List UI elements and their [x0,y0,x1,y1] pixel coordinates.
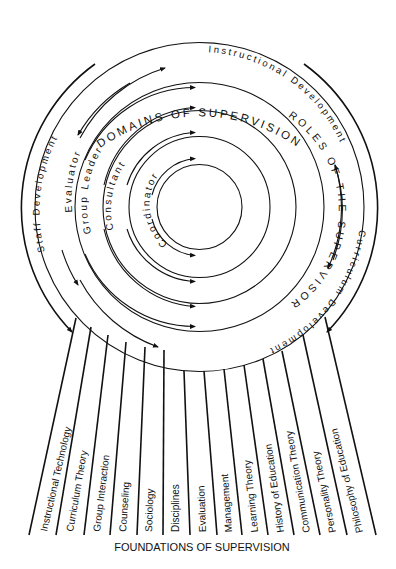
foundation-label: Communication Theory [283,430,312,534]
role-circle-evaluator [103,111,296,304]
foundation-label: Management [219,473,234,532]
group-leader-arrow-bottom [104,229,195,307]
foundation-label: Evaluation [195,485,208,532]
role-group-leader-label: Group Leader [78,144,105,236]
staff-development-arrow-bottom [62,250,78,285]
foundation-label: Group Interaction [91,454,111,532]
foundation-label: Learning Theory [241,460,260,533]
foundation-label: Personality Theory [310,450,338,534]
role-circle-coordinator [157,165,242,250]
curriculum-development-label: Curriculum Development [267,229,369,357]
evaluator-arrow-bottom [85,254,195,327]
supervision-diagram: DOMAINS OF SUPERVISION Instructional Dev… [0,0,396,569]
domains-title: DOMAINS OF SUPERVISION [95,106,305,149]
staff-development-label: Staff Development [31,132,60,254]
foundation-label: Counseling [117,481,131,532]
foundation-label: Sociology [143,488,156,532]
foundation-label: Disciplines [170,484,181,532]
foundations-title: FOUNDATIONS OF SUPERVISION [114,541,290,553]
role-consultant-label: Consultant [102,158,128,231]
